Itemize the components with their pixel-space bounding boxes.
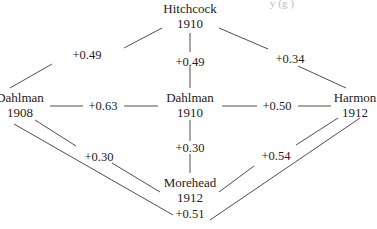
node-name: Dahlman	[166, 90, 214, 105]
header-fragment: y (g )	[270, 0, 294, 10]
node-year: 1912	[177, 190, 203, 205]
edge-label: +0.54	[262, 149, 292, 163]
node-year: 1910	[177, 105, 203, 120]
edge-line	[14, 124, 173, 215]
edge-label: +0.50	[263, 99, 292, 113]
edge-line	[10, 64, 52, 88]
edge-label: +0.30	[176, 141, 205, 155]
edge-line	[219, 166, 254, 192]
edge-line	[219, 28, 268, 49]
edge-label: +0.49	[176, 55, 205, 69]
node-year: 1908	[7, 105, 33, 120]
edge-line	[124, 28, 162, 48]
node-morehead-1912: Morehead 1912	[164, 175, 217, 205]
edge-line	[298, 66, 346, 88]
edge-line	[210, 118, 360, 220]
edge-line	[112, 163, 160, 192]
correlation-diagram: y (g ) +0.49 +0.49 +0.34 +0.63 +0.50 +0.…	[0, 0, 377, 229]
edge-label: +0.34	[276, 52, 306, 66]
node-dahlman-1908: Dahlman 1908	[0, 90, 44, 120]
edge-line	[35, 120, 76, 146]
node-name: Morehead	[164, 175, 217, 190]
edge-label: +0.49	[73, 48, 102, 62]
node-harmon-1912: Harmon 1912	[334, 90, 377, 120]
node-name: Harmon	[334, 90, 377, 105]
node-name: Hitchcock	[163, 1, 217, 16]
edge-label: +0.30	[85, 150, 114, 164]
node-year: 1912	[342, 105, 368, 120]
edge-label: +0.63	[89, 99, 118, 113]
edge-label: +0.51	[176, 207, 205, 221]
node-hitchcock-1910: Hitchcock 1910	[163, 1, 217, 31]
node-year: 1910	[177, 16, 203, 31]
node-dahlman-1910: Dahlman 1910	[166, 90, 214, 120]
edge-line	[296, 118, 338, 145]
node-name: Dahlman	[0, 90, 44, 105]
